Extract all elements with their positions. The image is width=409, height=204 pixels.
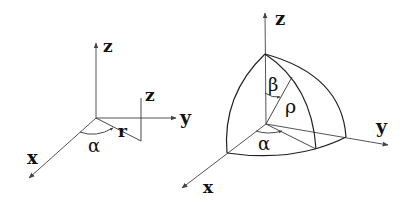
left-angle-label: α — [88, 135, 100, 156]
beta-label: β — [268, 74, 278, 95]
right-z-axis-label: z — [275, 8, 285, 29]
left-z-axis-label: z — [103, 36, 113, 56]
cylindrical-coordinates-figure: z z y r α x — [27, 36, 192, 178]
left-x-axis-label: x — [27, 147, 38, 168]
alpha-label: α — [258, 133, 270, 154]
right-z-axis — [265, 13, 266, 124]
sphere-right-arc — [265, 54, 346, 137]
left-x-axis — [29, 118, 96, 178]
right-x-axis-label: x — [203, 177, 214, 197]
coordinate-systems-diagram: z z y r α x z β ρ α y x — [0, 0, 409, 204]
left-y-axis-label: y — [179, 106, 192, 128]
spherical-coordinates-figure: z β ρ α y x — [182, 8, 388, 197]
left-angle-arc — [80, 128, 113, 134]
right-y-axis-label: y — [375, 115, 388, 137]
rho-label: ρ — [285, 95, 296, 117]
projection-line — [266, 124, 316, 149]
right-y-axis — [266, 124, 388, 145]
left-radius-label: r — [118, 121, 128, 141]
left-z-height-label: z — [145, 85, 155, 105]
